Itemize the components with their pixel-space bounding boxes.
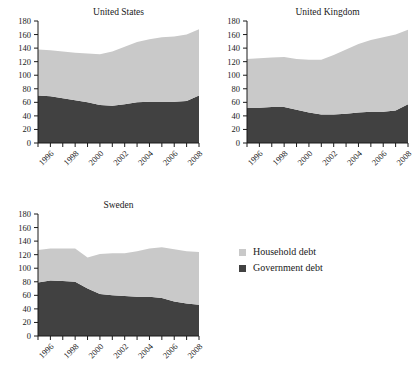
chart-title: United States (93, 7, 144, 17)
y-tick-label: 0 (27, 138, 31, 148)
legend-label-household: Household debt (253, 246, 316, 258)
y-tick-label: 120 (227, 57, 240, 67)
chart-panel-united-states: 0204060801001201401601801996199820002002… (0, 0, 208, 192)
y-tick-label: 20 (23, 317, 32, 327)
x-tick-label: 2000 (86, 148, 105, 167)
y-tick-label: 140 (18, 236, 31, 246)
y-tick-label: 180 (18, 209, 31, 219)
x-tick-label: 2004 (345, 148, 365, 168)
x-tick-label: 2002 (111, 148, 130, 167)
y-tick-label: 20 (23, 124, 32, 134)
x-tick-label: 1998 (61, 341, 80, 360)
y-tick-label: 60 (232, 97, 241, 107)
y-tick-label: 80 (23, 84, 32, 94)
legend-item-household: Household debt (239, 246, 323, 258)
x-tick-label: 2006 (161, 148, 180, 167)
chart-panel-united-kingdom: 0204060801001201401601801996199820002002… (209, 0, 417, 192)
x-tick-label: 2004 (136, 341, 156, 361)
y-tick-label: 40 (23, 111, 32, 121)
x-tick-label: 2000 (86, 341, 105, 360)
y-tick-label: 100 (18, 70, 31, 80)
y-tick-label: 40 (23, 304, 32, 314)
y-tick-label: 80 (23, 277, 32, 287)
y-tick-label: 120 (18, 250, 31, 260)
x-tick-label: 2000 (295, 148, 314, 167)
legend: Household debt Government debt (209, 193, 417, 385)
y-tick-label: 100 (18, 263, 31, 273)
x-tick-label: 2004 (136, 148, 156, 168)
y-tick-label: 20 (232, 124, 241, 134)
x-tick-label: 2008 (185, 341, 204, 360)
area-series-household-debt (247, 30, 408, 115)
y-tick-label: 160 (18, 30, 31, 40)
y-tick-label: 60 (23, 97, 32, 107)
chart-panel-sweden: 0204060801001201401601801996199820002002… (0, 193, 208, 385)
y-tick-label: 140 (227, 43, 240, 53)
y-tick-label: 60 (23, 290, 32, 300)
area-series-household-debt (38, 29, 199, 106)
chart-svg: 0204060801001201401601801996199820002002… (0, 0, 208, 192)
chart-title: Sweden (103, 200, 133, 210)
x-tick-label: 1998 (270, 148, 289, 167)
legend-swatch-government-icon (239, 265, 246, 272)
y-tick-label: 100 (227, 70, 240, 80)
y-tick-label: 160 (227, 30, 240, 40)
x-tick-label: 2006 (161, 341, 180, 360)
x-tick-label: 2008 (394, 148, 413, 167)
x-tick-label: 1998 (61, 148, 80, 167)
legend-items: Household debt Government debt (239, 246, 323, 278)
y-tick-label: 80 (232, 84, 241, 94)
y-tick-label: 140 (18, 43, 31, 53)
chart-title: United Kingdom (295, 7, 360, 17)
legend-item-government: Government debt (239, 262, 323, 274)
x-tick-label: 1996 (37, 148, 56, 167)
chart-svg: 0204060801001201401601801996199820002002… (0, 193, 208, 385)
x-tick-label: 2002 (111, 341, 130, 360)
legend-swatch-household-icon (239, 249, 246, 256)
y-tick-label: 0 (236, 138, 240, 148)
y-tick-label: 40 (232, 111, 241, 121)
y-tick-label: 180 (18, 16, 31, 26)
legend-label-government: Government debt (253, 262, 323, 274)
x-tick-label: 1996 (37, 341, 56, 360)
y-tick-label: 0 (27, 331, 31, 341)
y-tick-label: 180 (227, 16, 240, 26)
y-tick-label: 120 (18, 57, 31, 67)
y-tick-label: 160 (18, 223, 31, 233)
x-tick-label: 2002 (320, 148, 339, 167)
x-tick-label: 2008 (185, 148, 204, 167)
x-tick-label: 2006 (370, 148, 389, 167)
chart-svg: 0204060801001201401601801996199820002002… (209, 0, 417, 192)
x-tick-label: 1996 (246, 148, 265, 167)
